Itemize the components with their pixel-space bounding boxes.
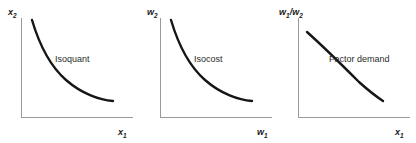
y-axis-label-sub2: 2 bbox=[298, 12, 303, 19]
x-axis-label: x1 bbox=[117, 127, 127, 139]
y-axis-label: w1/w2 bbox=[279, 7, 303, 19]
panel-factor-demand: w1/w2 x1 Factor demand bbox=[277, 0, 416, 143]
x-axis-label: x1 bbox=[394, 127, 404, 139]
y-axis-label-sub: 2 bbox=[153, 12, 158, 19]
y-axis-label: x2 bbox=[7, 7, 17, 19]
curve-label-factor-demand: Factor demand bbox=[329, 54, 390, 64]
panel-isocost: w2 w1 Isocost bbox=[139, 0, 278, 143]
x-axis-label: w1 bbox=[257, 127, 268, 139]
x-axis-label-sub: 1 bbox=[400, 132, 404, 139]
panel-isoquant: x2 x1 Isoquant bbox=[0, 0, 139, 143]
x-axis-label-sub: 1 bbox=[264, 132, 268, 139]
x-axis-label-sub: 1 bbox=[123, 132, 127, 139]
curve-label-isoquant: Isoquant bbox=[55, 54, 90, 64]
economics-figure: x2 x1 Isoquant w2 w1 Isocost bbox=[0, 0, 416, 143]
curve-label-isocost: Isocost bbox=[194, 54, 223, 64]
y-axis-label-sub: 2 bbox=[12, 12, 17, 19]
factor-demand-curve bbox=[307, 32, 383, 101]
y-axis-label: w2 bbox=[147, 7, 158, 19]
